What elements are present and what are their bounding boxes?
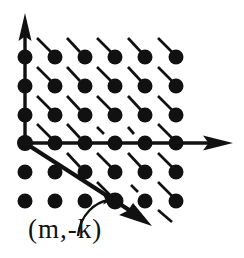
lattice-dot (18, 165, 33, 180)
lattice-dot (18, 194, 33, 209)
lattice-dash (158, 124, 172, 138)
lattice-dot (108, 79, 123, 94)
lattice-dot (48, 108, 63, 123)
lattice-dash (97, 127, 104, 134)
lattice-dash (37, 67, 51, 81)
lattice-dot-origin (17, 135, 33, 151)
lattice-dash (128, 38, 141, 52)
lattice-dot (108, 136, 123, 151)
lattice-dot (138, 79, 153, 94)
lattice-dash (67, 96, 80, 110)
lattice-dash (128, 96, 141, 110)
lattice-dot (18, 50, 33, 65)
lattice-dash (158, 182, 172, 196)
lattice-dot (138, 50, 153, 65)
lattice-dash (97, 153, 111, 167)
y-axis (19, 13, 32, 143)
lattice-dash (158, 210, 172, 222)
lattice-dash (97, 38, 111, 52)
lattice-dash (131, 185, 138, 192)
lattice-dot (138, 165, 153, 180)
lattice-dot (78, 50, 93, 65)
lattice-dot (48, 165, 63, 180)
lattice-dot (78, 165, 93, 180)
lattice-dot (108, 50, 123, 65)
lattice-dash (67, 124, 80, 138)
lattice-dot (48, 194, 63, 209)
lattice-dash (158, 153, 172, 167)
lattice-dot (78, 108, 93, 123)
lattice-dash (37, 96, 51, 110)
lattice-dot (169, 165, 184, 180)
lattice-dash (37, 124, 51, 138)
lattice-dot (138, 194, 153, 209)
lattice-dash (37, 38, 51, 52)
lattice-dash (128, 127, 134, 134)
lattice-dot (48, 50, 63, 65)
lattice-dot (78, 136, 93, 151)
vector-coordinate-label: (m,-k) (28, 216, 102, 243)
lattice-dot (169, 136, 184, 151)
lattice-dash (67, 153, 80, 167)
lattice-dash (158, 67, 172, 81)
lattice-dash (128, 67, 141, 81)
lattice-dash (158, 96, 172, 110)
lattice-figure: (m,-k) (0, 0, 244, 258)
lattice-dot (169, 194, 184, 209)
lattice-dot (48, 79, 63, 94)
lattice-dot (138, 108, 153, 123)
lattice-dot (169, 50, 184, 65)
lattice-dash (158, 38, 172, 52)
lattice-dot (169, 79, 184, 94)
lattice-dot (18, 108, 33, 123)
lattice-dot (138, 136, 153, 151)
lattice-dot (48, 136, 63, 151)
lattice-dash (97, 67, 111, 81)
lattice-dash (97, 96, 111, 110)
lattice-dot (108, 108, 123, 123)
lattice-dash (128, 153, 141, 167)
lattice-dot (169, 108, 184, 123)
lattice-dot (78, 79, 93, 94)
lattice-dot (108, 165, 123, 180)
lattice-dot (18, 79, 33, 94)
lattice-dash (67, 67, 80, 81)
lattice-dash (67, 38, 80, 52)
lattice-dot (78, 194, 93, 209)
